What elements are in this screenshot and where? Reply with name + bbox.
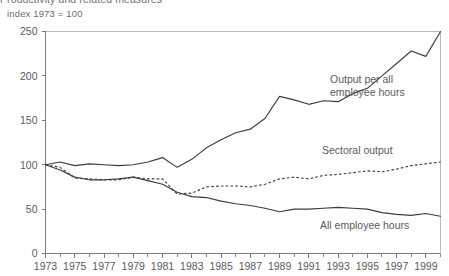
annotation-0: Output per allemployee hours: [330, 73, 405, 98]
svg-text:1989: 1989: [268, 260, 292, 272]
svg-text:200: 200: [20, 70, 38, 82]
svg-text:1985: 1985: [209, 260, 233, 272]
svg-text:1991: 1991: [297, 260, 321, 272]
series-line-2: [46, 165, 441, 217]
svg-text:50: 50: [26, 203, 38, 215]
chart-plot: 050100150200250 197319751977197919811983…: [0, 0, 449, 276]
svg-text:250: 250: [20, 25, 38, 37]
svg-text:1973: 1973: [34, 260, 58, 272]
annotation-1: Sectoral output: [322, 144, 393, 156]
svg-text:1993: 1993: [326, 260, 350, 272]
y-axis-labels: 050100150200250: [20, 25, 38, 259]
svg-text:1979: 1979: [122, 260, 146, 272]
annotation-2: All employee hours: [320, 219, 409, 231]
data-series: [46, 32, 441, 217]
svg-text:1983: 1983: [180, 260, 204, 272]
svg-text:1995: 1995: [356, 260, 380, 272]
svg-text:1975: 1975: [63, 260, 87, 272]
svg-text:0: 0: [32, 247, 38, 259]
svg-text:1981: 1981: [151, 260, 175, 272]
svg-text:1977: 1977: [92, 260, 116, 272]
svg-text:100: 100: [20, 159, 38, 171]
svg-text:1999: 1999: [414, 260, 438, 272]
svg-text:1987: 1987: [239, 260, 263, 272]
x-axis-labels: 1973197519771979198119831985198719891991…: [34, 260, 438, 272]
series-line-1: [46, 162, 441, 194]
svg-text:150: 150: [20, 114, 38, 126]
chart-container: Productivity and related measures index …: [0, 0, 449, 276]
svg-text:1997: 1997: [385, 260, 409, 272]
